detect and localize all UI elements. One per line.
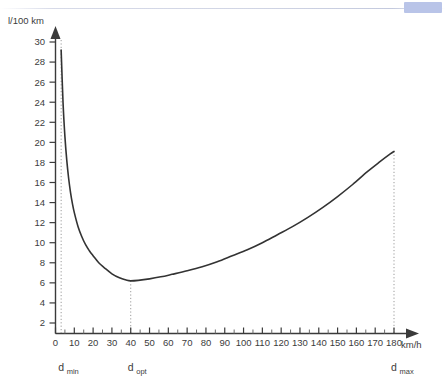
x-axis-tick-labels: 0102030405060708090100110120130140150160… bbox=[53, 337, 402, 348]
y-tick-label-24: 24 bbox=[34, 97, 45, 108]
y-tick-label-4: 4 bbox=[40, 297, 45, 308]
x-tick-label-30: 30 bbox=[107, 337, 118, 348]
x-tick-label-90: 90 bbox=[219, 337, 230, 348]
x-tick-label-60: 60 bbox=[163, 337, 174, 348]
x-tick-label-0: 0 bbox=[53, 337, 58, 348]
consumption-curve-group bbox=[61, 50, 394, 281]
y-tick-label-22: 22 bbox=[34, 117, 45, 128]
fuel-consumption-chart: 24681012141618202224262830 0102030405060… bbox=[0, 0, 446, 387]
y-tick-label-28: 28 bbox=[34, 56, 45, 67]
x-axis-arrowhead bbox=[406, 329, 419, 339]
x-tick-label-120: 120 bbox=[273, 337, 289, 348]
y-axis-arrowhead bbox=[51, 26, 61, 39]
y-axis-ticks bbox=[50, 42, 56, 323]
x-tick-label-70: 70 bbox=[182, 337, 193, 348]
y-tick-label-26: 26 bbox=[34, 77, 45, 88]
x-axis-ticks bbox=[56, 328, 395, 334]
x-tick-label-110: 110 bbox=[255, 337, 270, 348]
x-tick-label-100: 100 bbox=[236, 337, 252, 348]
y-tick-label-12: 12 bbox=[34, 217, 45, 228]
y-tick-label-14: 14 bbox=[34, 197, 45, 208]
x-tick-label-160: 160 bbox=[348, 337, 364, 348]
chart-svg: 24681012141618202224262830 0102030405060… bbox=[0, 0, 446, 387]
d_max-label: dmax bbox=[391, 361, 414, 376]
y-axis-title: l/100 km bbox=[8, 15, 44, 26]
d_min-label-text: d bbox=[58, 361, 64, 373]
y-tick-label-16: 16 bbox=[34, 177, 45, 188]
y-axis-tick-labels: 24681012141618202224262830 bbox=[34, 36, 45, 328]
axes-group bbox=[51, 26, 420, 339]
x-tick-label-10: 10 bbox=[69, 337, 80, 348]
x-tick-label-80: 80 bbox=[201, 337, 212, 348]
x-tick-label-20: 20 bbox=[88, 337, 99, 348]
d_max-label-subscript: max bbox=[400, 367, 414, 376]
x-tick-label-170: 170 bbox=[367, 337, 383, 348]
x-axis-title: km/h bbox=[401, 339, 422, 350]
d_min-label: dmin bbox=[58, 361, 79, 376]
y-tick-label-20: 20 bbox=[34, 137, 45, 148]
y-tick-label-10: 10 bbox=[34, 237, 45, 248]
annotation-labels: dmindoptdmax bbox=[58, 361, 414, 376]
dotted-guide-lines bbox=[61, 40, 394, 334]
consumption-curve bbox=[61, 50, 394, 281]
y-tick-label-8: 8 bbox=[40, 257, 45, 268]
d_min-label-subscript: min bbox=[67, 367, 79, 376]
y-tick-label-18: 18 bbox=[34, 157, 45, 168]
x-tick-label-40: 40 bbox=[125, 337, 136, 348]
x-tick-label-130: 130 bbox=[292, 337, 308, 348]
y-tick-label-6: 6 bbox=[40, 277, 45, 288]
y-tick-label-30: 30 bbox=[34, 36, 45, 47]
x-tick-label-150: 150 bbox=[330, 337, 346, 348]
x-tick-label-140: 140 bbox=[311, 337, 327, 348]
y-tick-label-2: 2 bbox=[40, 317, 45, 328]
d_opt-label-text: d bbox=[128, 361, 134, 373]
x-tick-label-50: 50 bbox=[144, 337, 155, 348]
x-tick-label-180: 180 bbox=[386, 337, 402, 348]
d_opt-label-subscript: opt bbox=[136, 367, 147, 376]
d_max-label-text: d bbox=[391, 361, 397, 373]
d_opt-label: dopt bbox=[128, 361, 148, 376]
